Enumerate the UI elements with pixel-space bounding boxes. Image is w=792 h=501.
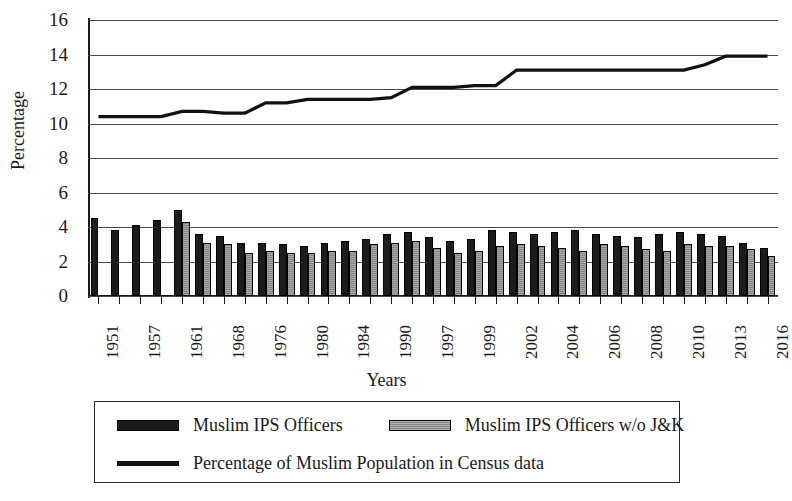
legend-row-2: Percentage of Muslim Population in Censu… [95,446,679,480]
y-tick-label-16: 16 [36,10,68,29]
legend-item-muslim-ips-officers-wo-jk: Muslim IPS Officers w/o J&K [389,415,685,436]
legend-row-1: Muslim IPS Officers Muslim IPS Officers … [95,408,679,442]
line-swatch-icon [117,461,179,466]
x-tick-label-2004: 2004 [564,325,581,359]
x-axis-tick-labels: 1951195719611968197619801984199019971999… [88,303,778,361]
y-tick-label-0: 0 [36,286,68,305]
x-tick-label-1999: 1999 [481,325,498,359]
dark-bar-swatch-icon [117,420,179,431]
x-tick-label-1990: 1990 [397,325,414,359]
y-tick-label-4: 4 [36,217,68,236]
x-tick-label-1980: 1980 [314,325,331,359]
x-tick-label-2010: 2010 [690,325,707,359]
x-tick-label-2016: 2016 [774,325,791,359]
x-tick-label-2002: 2002 [523,325,540,359]
x-tick-label-1968: 1968 [230,325,247,359]
x-tick-label-1984: 1984 [355,325,372,359]
y-tick-label-6: 6 [36,183,68,202]
x-tick-label-1997: 1997 [439,325,456,359]
plot-area [88,20,778,296]
y-tick-label-8: 8 [36,148,68,167]
x-tick-label-2006: 2006 [606,325,623,359]
gray-bar-swatch-icon [389,420,451,431]
y-tick-label-2: 2 [36,252,68,271]
y-tick-label-10: 10 [36,114,68,133]
x-tick-label-1957: 1957 [146,325,163,359]
chart-legend: Muslim IPS Officers Muslim IPS Officers … [94,401,680,483]
line-series-layer [88,20,778,296]
legend-label-0: Muslim IPS Officers [193,415,343,436]
legend-item-muslim-ips-officers: Muslim IPS Officers [117,415,343,436]
legend-label-2: Percentage of Muslim Population in Censu… [193,453,544,474]
x-tick-label-1976: 1976 [272,325,289,359]
x-axis-title: Years [0,370,773,391]
y-axis-title: Percentage [8,41,29,221]
y-tick-label-14: 14 [36,45,68,64]
x-tick-label-1951: 1951 [104,325,121,359]
x-tick-label-2008: 2008 [648,325,665,359]
legend-item-muslim-population: Percentage of Muslim Population in Censu… [117,453,544,474]
x-tick-label-2013: 2013 [732,325,749,359]
muslim-population-line [98,56,767,116]
legend-label-1: Muslim IPS Officers w/o J&K [465,415,685,436]
y-tick-label-12: 12 [36,79,68,98]
x-tick-label-1961: 1961 [188,325,205,359]
